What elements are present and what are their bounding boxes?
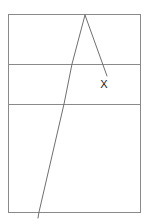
short-diagonal-line <box>85 15 107 76</box>
outer-rectangle <box>9 15 141 213</box>
point-label-x: X <box>100 78 108 90</box>
figure-canvas: X <box>0 0 148 224</box>
geometry-diagram: X <box>0 0 148 224</box>
long-diagonal-line <box>38 15 85 218</box>
